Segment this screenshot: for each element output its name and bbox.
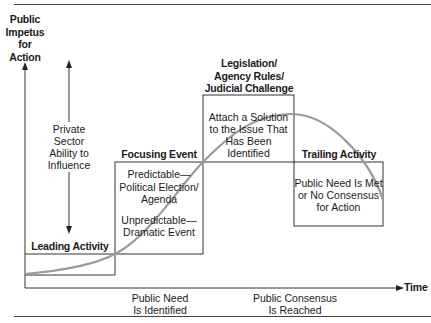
milestone-line: Is Identified (120, 304, 200, 316)
y-axis-label-line: Impetus (4, 26, 46, 39)
x-axis-label: Time (404, 281, 431, 294)
legislation-title: Legislation/ Agency Rules/ Judicial Chal… (195, 57, 303, 95)
y-axis-label-line: for (4, 38, 46, 51)
spacer (116, 206, 202, 214)
legislation-line: Attach a Solution (204, 111, 293, 123)
focusing-event-line: Unpredictable— (116, 214, 202, 227)
private-sector-line: Private (40, 123, 98, 135)
trailing-activity-line: Public Need Is Met (292, 177, 385, 189)
private-sector-line: Ability to (40, 147, 98, 159)
y-axis-label-line: Public (4, 13, 46, 26)
leading-activity-title: Leading Activity (28, 240, 112, 253)
focusing-event-line: Predictable— (116, 168, 202, 181)
legislation-title-line: Judicial Challenge (195, 82, 303, 95)
y-axis-label: Public Impetus for Action (4, 13, 46, 63)
trailing-activity-line: for Action (292, 201, 385, 213)
legislation-title-line: Legislation/ (195, 57, 303, 70)
private-sector-line: Influence (40, 159, 98, 171)
focusing-event-line: Political Election/ (116, 181, 202, 194)
trailing-activity-title: Trailing Activity (294, 148, 384, 161)
legislation-line: to the Issue That (204, 123, 293, 135)
milestone-public-need: Public Need Is Identified (120, 292, 200, 316)
trailing-activity-text: Public Need Is Met or No Consensus for A… (292, 177, 385, 213)
focusing-event-line: Agenda (116, 193, 202, 206)
legislation-title-line: Agency Rules/ (195, 70, 303, 83)
milestone-line: Is Reached (245, 304, 345, 316)
legislation-line: Has Been Identified (204, 135, 293, 159)
private-sector-line: Sector (40, 135, 98, 147)
milestone-line: Public Consensus (245, 292, 345, 304)
private-sector-label: Private Sector Ability to Influence (40, 123, 98, 171)
milestone-line: Public Need (120, 292, 200, 304)
focusing-event-text: Predictable— Political Election/ Agenda … (116, 168, 202, 239)
milestone-public-consensus: Public Consensus Is Reached (245, 292, 345, 316)
focusing-event-title: Focusing Event (113, 148, 205, 161)
y-axis-label-line: Action (4, 51, 46, 64)
legislation-text: Attach a Solution to the Issue That Has … (204, 111, 293, 159)
trailing-activity-line: or No Consensus (292, 189, 385, 201)
focusing-event-line: Dramatic Event (116, 226, 202, 239)
